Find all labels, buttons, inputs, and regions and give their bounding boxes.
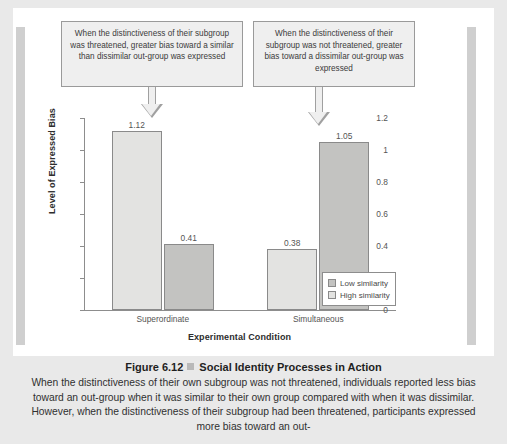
y-axis-tick-label: 0.4 bbox=[376, 241, 388, 251]
figure-root: When the distinctiveness of their subgro… bbox=[0, 0, 507, 444]
gray-square-icon bbox=[187, 363, 194, 370]
bar: 0.41 bbox=[164, 244, 214, 310]
annotation-arrow-left-icon bbox=[141, 87, 163, 118]
annotation-callout-left: When the distinctiveness of their subgro… bbox=[61, 21, 243, 87]
bar-value-label: 1.12 bbox=[129, 120, 145, 130]
y-axis-tick bbox=[80, 118, 85, 119]
y-axis-tick-label: 1 bbox=[383, 145, 388, 155]
y-axis-tick bbox=[80, 182, 85, 183]
x-axis-tick-label: Simultaneous bbox=[293, 314, 344, 324]
decorative-rule-left bbox=[16, 27, 25, 345]
annotation-callout-right: When the distinctiveness of their subgro… bbox=[253, 21, 415, 87]
legend-swatch-icon bbox=[328, 291, 336, 299]
y-axis-tick-label: 0.8 bbox=[376, 177, 388, 187]
decorative-rule-right bbox=[467, 27, 476, 345]
x-axis-tick-label: Superordinate bbox=[136, 314, 189, 324]
bar: 0.38 bbox=[267, 249, 317, 310]
legend-item-label: Low similarity bbox=[340, 279, 388, 288]
y-axis-tick bbox=[80, 246, 85, 247]
y-axis-tick bbox=[80, 310, 85, 311]
bar-value-label: 0.41 bbox=[181, 233, 197, 243]
figure-caption-body: When the distinctiveness of their own su… bbox=[24, 376, 483, 434]
y-axis-tick-label: 0.6 bbox=[376, 209, 388, 219]
legend-item: Low similarity bbox=[328, 277, 390, 289]
figure-number: Figure 6.12 bbox=[125, 361, 183, 373]
y-axis-tick-label: 1.2 bbox=[376, 113, 388, 123]
y-axis-tick-label: 0 bbox=[383, 305, 388, 315]
chart-legend: Low similarityHigh similarity bbox=[322, 272, 396, 306]
figure-title-text: Social Identity Processes in Action bbox=[199, 361, 381, 373]
y-axis-tick bbox=[80, 278, 85, 279]
legend-swatch-icon bbox=[328, 279, 336, 287]
bar-value-label: 0.38 bbox=[284, 238, 300, 248]
legend-item-label: High similarity bbox=[340, 291, 390, 300]
y-axis-title: Level of Expressed Bias bbox=[47, 108, 57, 214]
legend-item: High similarity bbox=[328, 289, 390, 301]
bar-value-label: 1.05 bbox=[336, 131, 352, 141]
x-axis-title: Experimental Condition bbox=[84, 332, 395, 342]
y-axis-tick bbox=[80, 150, 85, 151]
bar: 1.12 bbox=[112, 131, 162, 310]
figure-caption: Figure 6.12Social Identity Processes in … bbox=[24, 361, 483, 434]
figure-caption-title: Figure 6.12Social Identity Processes in … bbox=[24, 361, 483, 373]
y-axis-tick bbox=[80, 214, 85, 215]
